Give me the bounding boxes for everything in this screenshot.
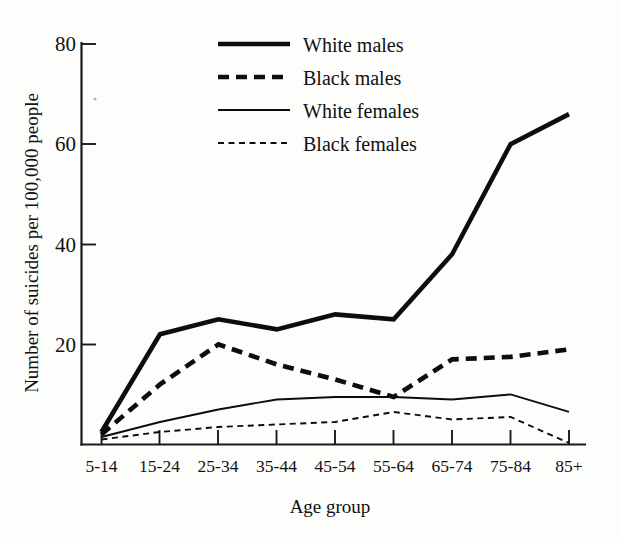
chart-figure: 80 60 40 20 5-14 15-24 25-34 35-44 45-54…	[0, 0, 619, 543]
y-tick-label-80: 80	[55, 32, 76, 56]
x-tick-label-7: 75-84	[490, 456, 531, 476]
legend-label-white-males: White males	[303, 34, 404, 56]
series-line-white-males	[102, 114, 570, 432]
x-tick-label-0: 5-14	[85, 456, 117, 476]
x-tick-label-1: 15-24	[139, 456, 180, 476]
series-line-black-males	[102, 344, 570, 434]
y-axis-title: Number of suicides per 100,000 people	[21, 93, 42, 393]
paper-speck	[93, 97, 96, 100]
x-tick-label-8: 85+	[555, 456, 583, 476]
x-tick-label-5: 55-64	[373, 456, 414, 476]
y-tick-label-40: 40	[55, 233, 76, 257]
y-tick-label-60: 60	[55, 132, 76, 156]
legend-label-black-females: Black females	[303, 133, 417, 155]
legend-label-black-males: Black males	[303, 67, 402, 89]
x-tick-marks	[102, 430, 570, 445]
x-tick-label-4: 45-54	[315, 456, 356, 476]
y-tick-label-20: 20	[55, 333, 76, 357]
x-axis-title: Age group	[290, 496, 371, 517]
legend-label-white-females: White females	[303, 100, 419, 122]
y-tick-marks	[82, 44, 97, 345]
line-chart-canvas: 80 60 40 20 5-14 15-24 25-34 35-44 45-54…	[0, 0, 619, 543]
legend: White males Black males White females Bl…	[218, 34, 419, 155]
x-tick-label-3: 35-44	[256, 456, 297, 476]
x-tick-label-6: 65-74	[432, 456, 473, 476]
x-tick-label-2: 25-34	[198, 456, 239, 476]
